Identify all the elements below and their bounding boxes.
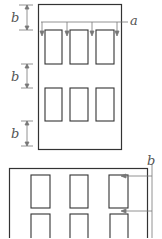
label-b-right: b	[147, 154, 155, 167]
top-facade-frame	[39, 5, 122, 150]
window	[110, 214, 128, 238]
window	[70, 88, 88, 121]
bottom-facade	[10, 164, 153, 238]
label-b-3: b	[11, 127, 19, 140]
dimension-a	[40, 22, 128, 36]
window	[31, 175, 50, 208]
window	[70, 214, 88, 238]
window	[45, 30, 62, 64]
window	[70, 30, 88, 64]
window	[45, 88, 62, 121]
window	[96, 88, 114, 121]
facade-diagram	[0, 0, 162, 238]
window	[109, 175, 128, 208]
window	[96, 30, 114, 64]
dimension-b-left	[19, 5, 33, 146]
label-b-2: b	[11, 70, 19, 83]
window	[31, 214, 50, 238]
top-facade	[19, 5, 128, 150]
label-a: a	[130, 14, 138, 27]
bottom-facade-frame	[10, 169, 148, 239]
label-b-1: b	[11, 11, 19, 24]
window	[70, 175, 88, 208]
